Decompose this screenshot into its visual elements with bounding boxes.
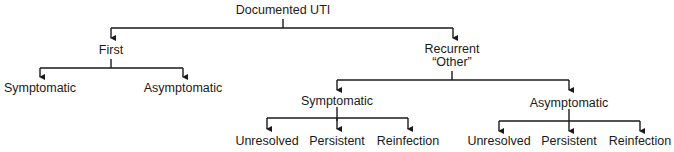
node-other-label: “Other” — [425, 56, 480, 69]
uti-classification-diagram: Documented UTI First Recurrent “Other” S… — [0, 0, 674, 152]
node-first-asymptomatic: Asymptomatic — [144, 82, 223, 95]
node-first-symptomatic: Symptomatic — [4, 82, 76, 95]
node-first: First — [99, 44, 123, 57]
connector-lines — [0, 0, 674, 152]
node-recurrent-asymptomatic: Asymptomatic — [530, 97, 609, 110]
node-recurrent-symptomatic: Symptomatic — [301, 95, 373, 108]
leaf-symptomatic-persistent: Persistent — [309, 135, 365, 148]
node-recurrent-other: Recurrent “Other” — [425, 43, 480, 69]
leaf-asymptomatic-persistent: Persistent — [541, 135, 597, 148]
leaf-asymptomatic-unresolved: Unresolved — [467, 135, 530, 148]
leaf-asymptomatic-reinfection: Reinfection — [609, 135, 672, 148]
leaf-symptomatic-reinfection: Reinfection — [377, 135, 440, 148]
root-node-documented-uti: Documented UTI — [236, 4, 330, 17]
leaf-symptomatic-unresolved: Unresolved — [235, 135, 298, 148]
